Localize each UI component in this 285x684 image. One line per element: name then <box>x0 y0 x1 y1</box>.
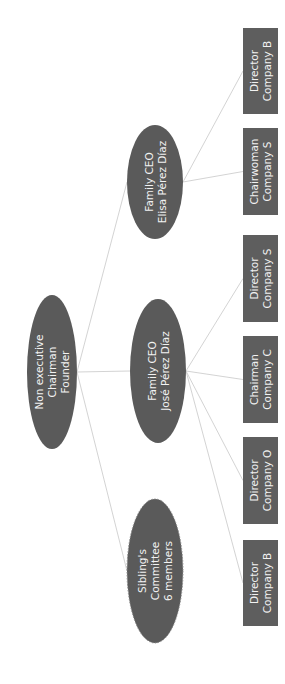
jose-label-line-1: Family CEO <box>146 341 158 400</box>
founder-label-line-2: Chairman <box>46 347 58 398</box>
siblings-label: Sibling'sCommittee6 members <box>136 541 174 601</box>
box2-label-line-2: Company S <box>261 141 273 201</box>
node-box5: DirectorCompany O <box>243 437 278 524</box>
siblings-label-line-3: 6 members <box>162 541 174 601</box>
box4-label-line-2: Company C <box>261 349 273 410</box>
founder-label-line-3: Founder <box>59 350 71 394</box>
edge-founder-siblings <box>77 372 127 571</box>
org-chart: Non executiveChairmanFounderFamily CEOEl… <box>0 0 285 684</box>
box2-label-line-1: Chairwoman <box>248 139 260 205</box>
box4-label: ChairmanCompany C <box>248 349 273 410</box>
elisa-label: Family CEOElisa Pérez Díaz <box>143 140 168 223</box>
node-elisa: Family CEOElisa Pérez Díaz <box>127 125 183 239</box>
siblings-label-line-1: Sibling's <box>136 549 148 593</box>
edge-elisa-box1 <box>183 71 243 182</box>
box6-label-line-2: Company B <box>261 553 273 614</box>
node-box4: ChairmanCompany C <box>243 336 278 423</box>
edge-jose-box3 <box>186 279 243 372</box>
box1-label-line-1: Director <box>248 49 260 92</box>
elisa-label-line-2: Elisa Pérez Díaz <box>156 140 168 223</box>
node-siblings: Sibling'sCommittee6 members <box>127 499 183 643</box>
node-box1: DirectorCompany B <box>243 28 278 114</box>
box3-label-line-1: Director <box>248 257 260 300</box>
jose-label-line-2: José Pérez Díaz <box>159 331 171 412</box>
node-box6: DirectorCompany B <box>243 540 278 626</box>
nodes-layer: Non executiveChairmanFounderFamily CEOEl… <box>27 28 278 643</box>
box4-label-line-1: Chairman <box>248 354 260 405</box>
edge-founder-elisa <box>77 182 127 372</box>
box5-label-line-1: Director <box>248 459 260 502</box>
box5-label-line-2: Company O <box>261 450 273 512</box>
box6-label-line-1: Director <box>248 561 260 604</box>
jose-label: Family CEOJosé Pérez Díaz <box>146 331 171 412</box>
founder-label-line-1: Non executive <box>33 334 45 409</box>
edge-jose-box5 <box>186 371 243 481</box>
box2-label: ChairwomanCompany S <box>248 139 273 205</box>
box1-label-line-2: Company B <box>261 41 273 102</box>
node-jose: Family CEOJosé Pérez Díaz <box>130 299 186 443</box>
siblings-label-line-2: Committee <box>149 542 161 600</box>
box3-label-line-2: Company S <box>261 248 273 308</box>
node-box3: DirectorCompany S <box>243 235 278 322</box>
node-founder: Non executiveChairmanFounder <box>27 295 77 449</box>
edge-jose-box4 <box>186 371 243 380</box>
node-box2: ChairwomanCompany S <box>243 128 278 215</box>
elisa-label-line-1: Family CEO <box>143 152 155 211</box>
edge-elisa-box2 <box>183 172 243 183</box>
edge-founder-jose <box>77 371 130 372</box>
edge-jose-box6 <box>186 371 243 583</box>
